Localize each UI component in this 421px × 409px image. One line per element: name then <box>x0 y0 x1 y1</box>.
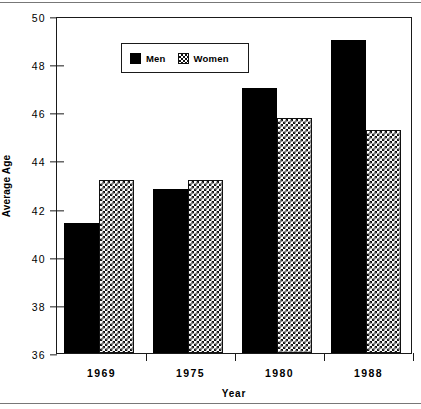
legend-swatch-men-icon <box>130 53 141 64</box>
bar-men-1975 <box>153 189 188 353</box>
y-tick-label-40: 40 <box>32 253 46 265</box>
y-tick-label-44: 44 <box>32 156 46 168</box>
bar-women-1969 <box>99 180 134 353</box>
x-tick-1975 <box>235 353 236 361</box>
x-tick-label-1988: 1988 <box>354 367 383 379</box>
bar-men-1988 <box>331 40 366 353</box>
y-tick-inner-48 <box>57 65 64 66</box>
y-tick-inner-40 <box>57 258 64 259</box>
x-tick-label-1969: 1969 <box>87 367 116 379</box>
y-tick-inner-42 <box>57 210 64 211</box>
bar-women-1988 <box>366 130 401 353</box>
x-tick-1980 <box>324 353 325 361</box>
y-tick-label-46: 46 <box>32 108 46 120</box>
y-tick-label-36: 36 <box>32 349 46 361</box>
plot-area: 3638404244464850 1969197519801988 Men Wo… <box>56 17 412 354</box>
x-tick-1988 <box>413 353 414 361</box>
legend-entry-men: Men <box>130 53 166 64</box>
bar-chart-figure: Average Age Year 3638404244464850 196919… <box>0 0 421 409</box>
x-tick-label-1975: 1975 <box>176 367 205 379</box>
y-tick-46 <box>50 114 57 115</box>
x-tick-1969 <box>146 353 147 361</box>
y-tick-42 <box>50 210 57 211</box>
y-tick-36 <box>50 354 57 355</box>
bar-women-1980 <box>277 118 312 353</box>
legend-entry-women: Women <box>178 53 229 64</box>
y-tick-label-48: 48 <box>32 60 46 72</box>
y-tick-inner-44 <box>57 162 64 163</box>
y-tick-48 <box>50 65 57 66</box>
y-tick-44 <box>50 162 57 163</box>
y-tick-inner-46 <box>57 114 64 115</box>
chart-legend: Men Women <box>121 43 249 73</box>
bar-men-1969 <box>64 223 99 353</box>
y-tick-label-50: 50 <box>32 12 46 24</box>
y-tick-40 <box>50 258 57 259</box>
bar-men-1980 <box>242 88 277 353</box>
legend-label-women: Women <box>194 53 229 64</box>
y-tick-label-38: 38 <box>32 301 46 313</box>
y-tick-label-42: 42 <box>32 205 46 217</box>
y-tick-38 <box>50 306 57 307</box>
bar-women-1975 <box>188 180 223 353</box>
y-tick-inner-38 <box>57 306 64 307</box>
x-tick-label-1980: 1980 <box>265 367 294 379</box>
y-tick-50 <box>50 17 57 18</box>
legend-label-men: Men <box>146 53 166 64</box>
legend-swatch-women-icon <box>178 53 189 64</box>
x-axis-title: Year <box>222 388 246 399</box>
y-axis-title: Average Age <box>1 155 12 218</box>
